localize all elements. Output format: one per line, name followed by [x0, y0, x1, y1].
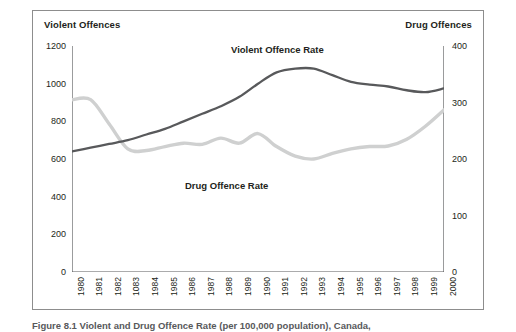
- x-axis-tick-label: 1986: [187, 276, 197, 295]
- x-axis-tick-label: 1989: [243, 276, 253, 295]
- figure-page: Violent Offences Drug Offences 020040060…: [0, 0, 516, 332]
- x-axis-tick-label: 1993: [317, 276, 327, 295]
- right-axis-tick-label: 100: [452, 211, 467, 221]
- left-axis-tick-label: 0: [61, 267, 66, 277]
- x-axis-tick-label: 1984: [150, 276, 160, 295]
- right-axis-title: Drug Offences: [405, 19, 472, 30]
- series-line-violent: [72, 68, 444, 152]
- x-axis-tick-label: 1981: [94, 276, 104, 295]
- series-label-violent: Violent Offence Rate: [231, 44, 324, 55]
- series-line-drug: [72, 98, 444, 159]
- figure-caption: Figure 8.1 Violent and Drug Offence Rate…: [32, 320, 502, 331]
- left-axis-title: Violent Offences: [44, 19, 120, 30]
- right-axis-tick-label: 300: [452, 98, 467, 108]
- chart-canvas: [72, 46, 444, 272]
- left-axis-tick-label: 200: [51, 229, 66, 239]
- x-axis-tick-label: 1997: [392, 276, 402, 295]
- left-axis-tick-labels: 020040060080010001200: [26, 46, 66, 272]
- x-axis-tick-label: 1980: [76, 276, 86, 295]
- x-axis-tick-label: 1987: [206, 276, 216, 295]
- left-axis-tick-label: 800: [51, 116, 66, 126]
- plot-area: [72, 46, 444, 272]
- right-axis-tick-label: 400: [452, 41, 467, 51]
- x-axis-tick-label: 1999: [429, 276, 439, 295]
- x-axis-tick-labels: 1980198119821083198419851986198719881989…: [72, 276, 444, 310]
- left-axis-tick-label: 400: [51, 192, 66, 202]
- x-axis-tick-label: 1988: [224, 276, 234, 295]
- x-axis-tick-label: 1994: [336, 276, 346, 295]
- series-label-drug: Drug Offence Rate: [185, 180, 268, 191]
- x-axis-tick-label: 1990: [262, 276, 272, 295]
- x-axis-tick-label: 1995: [355, 276, 365, 295]
- left-axis-tick-label: 1000: [46, 79, 66, 89]
- x-axis-tick-label: 1985: [169, 276, 179, 295]
- x-axis-tick-label: 1998: [410, 276, 420, 295]
- left-axis-tick-label: 1200: [46, 41, 66, 51]
- x-axis-tick-label: 1982: [113, 276, 123, 295]
- x-axis-tick-label: 2000: [448, 276, 458, 295]
- x-axis-tick-label: 1083: [131, 276, 141, 295]
- right-axis-tick-labels: 0100200300400: [452, 46, 496, 272]
- x-axis-tick-label: 1992: [299, 276, 309, 295]
- right-axis-tick-label: 200: [452, 154, 467, 164]
- x-axis-tick-label: 1996: [373, 276, 383, 295]
- left-axis-tick-label: 600: [51, 154, 66, 164]
- x-axis-tick-label: 1991: [280, 276, 290, 295]
